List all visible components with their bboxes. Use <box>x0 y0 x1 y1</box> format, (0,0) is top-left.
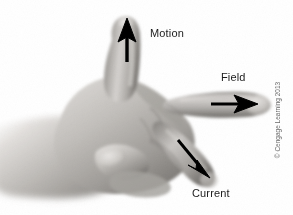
right-hand-rule-figure: Motion Field Current © Cengage Learning … <box>0 0 293 215</box>
hand-photograph <box>0 0 293 215</box>
field-label: Field <box>221 71 246 83</box>
current-label: Current <box>192 187 230 199</box>
motion-label: Motion <box>150 27 184 39</box>
copyright-credit: © Cengage Learning 2013 <box>274 74 282 166</box>
